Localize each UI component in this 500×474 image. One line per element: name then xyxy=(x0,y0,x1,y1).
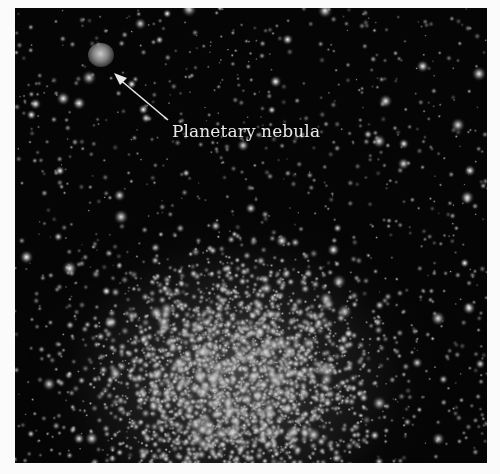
star-cluster-photo: Planetary nebula xyxy=(15,8,487,463)
figure-page: Planetary nebula xyxy=(0,0,500,474)
planetary-nebula xyxy=(88,43,114,67)
planetary-nebula-label: Planetary nebula xyxy=(172,121,320,141)
star-field xyxy=(15,8,487,463)
